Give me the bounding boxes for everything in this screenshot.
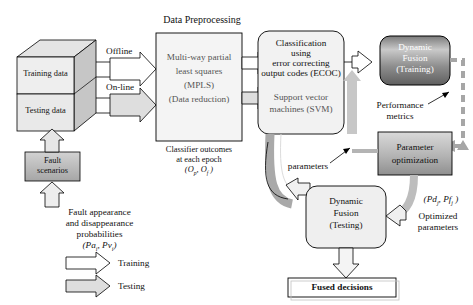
performance-metrics-line1: Performance [359, 100, 441, 110]
fused-decisions-label: Fused decisions [288, 282, 396, 292]
arrow-offline [110, 52, 156, 86]
arrow-testing-to-fused [333, 248, 359, 278]
cube-testing-label: Testing data [17, 106, 74, 115]
preprocessing-title: Data Preprocessing [142, 14, 262, 25]
classifier-outcomes-line1: Classifier outcomes [149, 145, 249, 154]
fault-caption-line2: and disappearance [27, 218, 172, 228]
classifier-outcomes-formula: (Op, Of ) [149, 165, 249, 176]
dft-line2: Fusion [380, 53, 450, 63]
classifier-outcomes-line2: at each epoch [149, 155, 249, 164]
cube-training-label: Training data [17, 69, 74, 78]
classification-line2: using [258, 48, 344, 58]
classification-line3: error correcting [258, 58, 344, 68]
fault-caption-formula: (Pai, Pvi) [27, 240, 172, 253]
classification-line1: Classification [258, 38, 344, 48]
formula-pa-prefix: (Pa [83, 240, 96, 250]
optimized-line1: Optimized [405, 211, 471, 221]
fault-scenarios-line2: scenarios [25, 166, 80, 175]
preprocessing-line2: least squares [156, 66, 242, 76]
formula-pd-prefix: (Pd [424, 194, 437, 204]
legend-arrow-testing [66, 275, 110, 297]
formula-pf-suffix: ) [453, 194, 458, 204]
dfte-line3: (Testing) [306, 220, 386, 230]
preprocessing-line4: (Data reduction) [156, 94, 242, 104]
arrow-class-to-dft [344, 51, 372, 73]
optimized-formula: (Pdj, Pfj ) [408, 194, 473, 207]
data-cube [17, 40, 96, 131]
formula-op-prefix: (O [185, 165, 194, 174]
formula-suffix: ) [113, 240, 116, 250]
online-label: On-line [106, 82, 154, 92]
param-opt-line1: Parameter [378, 142, 452, 152]
preprocessing-line1: Multi-way partial [156, 52, 242, 62]
offline-label: Offline [106, 46, 154, 56]
arrow-online [110, 88, 156, 122]
formula-pf-mid: , Pf [439, 194, 452, 204]
classification-line4: output codes (ECOC) [254, 68, 348, 78]
formula-pv-mid: , Pv [97, 240, 111, 250]
param-opt-line2: optimization [378, 155, 452, 165]
dft-line1: Dynamic [380, 42, 450, 52]
parameter-optimization-box [378, 132, 452, 175]
legend-training-label: Training [118, 258, 178, 268]
fault-caption-line3: probabilities [27, 229, 172, 239]
optimized-line2: parameters [405, 222, 471, 232]
fault-caption-line1: Fault appearance [27, 207, 172, 217]
fault-scenarios-line1: Fault [25, 156, 80, 165]
arrow-prob-to-fault [40, 182, 64, 207]
classification-line6: machines (SVM) [258, 104, 344, 114]
dfte-line1: Dynamic [306, 196, 386, 206]
formula-of-suffix: ) [208, 165, 213, 174]
dfte-line2: Fusion [306, 208, 386, 218]
diagram-root: Data Preprocessing Training data Testing… [0, 0, 473, 305]
classification-line5: Support vector [258, 92, 344, 102]
legend-testing-label: Testing [118, 281, 178, 291]
dft-line3: (Training) [380, 64, 450, 74]
parameters-label: parameters [280, 161, 336, 171]
performance-metrics-line2: metrics [359, 111, 441, 121]
preprocessing-line3: (MPLS) [156, 80, 242, 90]
legend-arrow-training [66, 252, 110, 274]
formula-of-mid: , O [196, 165, 206, 174]
arrow-fault-to-cube [40, 129, 64, 152]
